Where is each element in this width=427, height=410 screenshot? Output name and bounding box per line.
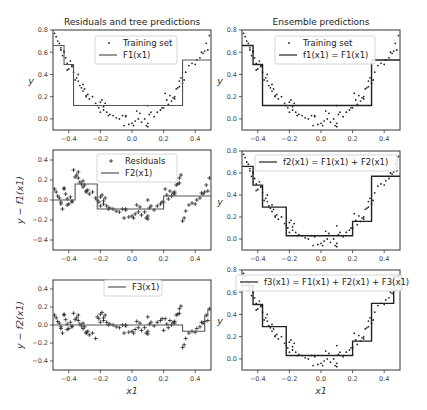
training-point bbox=[274, 216, 276, 218]
figure: Residuals and tree predictions Ensemble … bbox=[0, 0, 427, 410]
training-point bbox=[284, 102, 286, 104]
x-tick-label: −0.4 bbox=[250, 375, 266, 383]
training-point bbox=[369, 77, 371, 79]
training-point bbox=[254, 178, 256, 180]
training-point bbox=[295, 111, 297, 113]
training-point bbox=[147, 126, 149, 128]
training-point bbox=[336, 366, 338, 368]
training-point bbox=[79, 85, 81, 87]
training-point bbox=[98, 107, 100, 109]
training-point bbox=[296, 115, 298, 117]
training-point bbox=[322, 365, 324, 367]
x-axis-label: x1 bbox=[314, 385, 327, 396]
y-tick-label: 0.0 bbox=[38, 321, 48, 329]
training-point bbox=[266, 201, 268, 203]
y-tick-label: 0.4 bbox=[227, 71, 237, 79]
training-point bbox=[312, 365, 314, 367]
training-point bbox=[274, 336, 276, 338]
residual-point bbox=[187, 203, 191, 207]
training-point bbox=[394, 42, 396, 44]
x-tick-label: 0.0 bbox=[316, 375, 326, 383]
training-point bbox=[317, 364, 319, 366]
y-tick-label: 0.2 bbox=[38, 303, 48, 311]
training-point bbox=[320, 243, 322, 245]
training-point bbox=[247, 163, 249, 165]
y-tick-label: 0.8 bbox=[227, 26, 237, 34]
training-point bbox=[385, 180, 387, 182]
training-point bbox=[174, 98, 176, 100]
x-tick-label: 0.4 bbox=[190, 135, 200, 143]
training-point bbox=[374, 192, 376, 194]
training-point bbox=[107, 115, 109, 117]
residual-point bbox=[64, 318, 68, 322]
training-point bbox=[141, 121, 143, 123]
training-point bbox=[292, 226, 294, 228]
training-point bbox=[287, 227, 289, 229]
training-point bbox=[266, 320, 268, 322]
training-point bbox=[349, 109, 351, 111]
training-point bbox=[276, 94, 278, 96]
y-tick-label: 0.8 bbox=[227, 147, 237, 155]
residual-point bbox=[146, 315, 150, 319]
training-point bbox=[263, 200, 265, 202]
training-point bbox=[255, 69, 257, 71]
x-tick-label: 0.4 bbox=[190, 375, 200, 383]
training-point bbox=[84, 88, 86, 90]
training-point bbox=[255, 190, 257, 192]
training-point bbox=[334, 245, 336, 247]
training-point bbox=[100, 101, 102, 103]
col-title-right: Ensemble predictions bbox=[273, 17, 370, 27]
training-point bbox=[106, 111, 108, 113]
training-point bbox=[270, 87, 272, 89]
x-tick-label: −0.4 bbox=[61, 375, 77, 383]
training-point bbox=[263, 79, 265, 81]
training-point bbox=[353, 92, 355, 94]
training-point bbox=[349, 349, 351, 351]
y-tick-label: 0.2 bbox=[38, 176, 48, 184]
training-point bbox=[194, 64, 196, 66]
subplot-residuals-1: −0.4−0.20.00.20.40.00.20.40.60.8Training… bbox=[27, 26, 211, 143]
training-point bbox=[339, 232, 341, 234]
training-point bbox=[292, 349, 294, 351]
training-point bbox=[377, 185, 379, 187]
training-point bbox=[372, 79, 374, 81]
subplot-ensemble-1: −0.4−0.20.00.20.40.00.20.40.60.8Training… bbox=[216, 26, 400, 143]
training-point bbox=[320, 362, 322, 364]
training-point bbox=[191, 62, 193, 64]
training-point bbox=[260, 66, 262, 68]
training-point bbox=[156, 111, 158, 113]
training-point bbox=[295, 232, 297, 234]
training-point bbox=[361, 337, 363, 339]
y-tick-label: −0.4 bbox=[32, 357, 48, 365]
legend-label: f1(x1) = F1(x1) bbox=[303, 50, 368, 60]
training-point bbox=[398, 156, 400, 158]
training-point bbox=[293, 342, 295, 344]
training-point bbox=[204, 50, 206, 52]
training-point bbox=[273, 208, 275, 210]
training-point bbox=[361, 217, 363, 219]
residual-point bbox=[64, 192, 68, 196]
x-tick-label: −0.2 bbox=[282, 255, 298, 263]
training-point bbox=[328, 112, 330, 114]
training-point bbox=[330, 121, 332, 123]
training-point bbox=[380, 62, 382, 64]
training-point bbox=[356, 224, 358, 226]
residual-point bbox=[60, 331, 64, 335]
training-point bbox=[260, 306, 262, 308]
residual-point bbox=[91, 190, 95, 194]
training-point bbox=[175, 88, 177, 90]
training-point bbox=[364, 208, 366, 210]
training-point bbox=[71, 66, 73, 68]
training-point bbox=[368, 320, 370, 322]
residual-point bbox=[143, 326, 147, 330]
residual-point bbox=[184, 337, 188, 341]
training-point bbox=[323, 240, 325, 242]
training-point bbox=[320, 122, 322, 124]
training-point bbox=[260, 186, 262, 188]
training-point bbox=[326, 238, 328, 240]
training-point bbox=[69, 60, 71, 62]
training-point bbox=[336, 345, 338, 347]
training-point bbox=[377, 65, 379, 67]
training-point bbox=[366, 327, 368, 329]
training-point bbox=[293, 223, 295, 225]
